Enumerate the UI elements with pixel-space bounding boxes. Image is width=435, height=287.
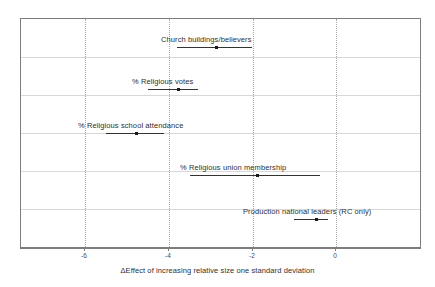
x-tick-label: 0 — [333, 252, 337, 259]
confidence-interval-bar — [148, 89, 198, 90]
vertical-gridline-neg6 — [85, 19, 86, 247]
vertical-gridline-neg4 — [169, 19, 170, 247]
horizontal-gridline — [21, 133, 420, 134]
x-tick-label: -4 — [165, 252, 171, 259]
x-axis-title: ΔEffect of increasing relative size one … — [0, 266, 435, 275]
x-tick-label: -6 — [81, 252, 87, 259]
series-label: % Religious school attendance — [78, 121, 183, 130]
point-estimate-marker — [256, 174, 259, 177]
plot-area: Church buildings/believers % Religious v… — [20, 18, 421, 248]
coefficient-plot-figure: Church buildings/believers % Religious v… — [0, 0, 435, 287]
x-tick-mark — [252, 248, 253, 251]
x-tick-label: -2 — [249, 252, 255, 259]
x-tick-mark — [168, 248, 169, 251]
point-estimate-marker — [215, 46, 218, 49]
point-estimate-marker — [135, 132, 138, 135]
confidence-interval-bar — [294, 219, 328, 220]
horizontal-gridline — [21, 57, 420, 58]
x-tick-mark — [335, 248, 336, 251]
point-estimate-marker — [177, 88, 180, 91]
series-label: % Religious union membership — [180, 163, 286, 172]
confidence-interval-bar — [190, 175, 320, 176]
point-estimate-marker — [315, 218, 318, 221]
horizontal-gridline — [21, 95, 420, 96]
x-axis-line — [20, 248, 421, 249]
series-label: Production national leaders (RC only) — [243, 207, 371, 216]
x-tick-mark — [84, 248, 85, 251]
series-label: % Religious votes — [132, 77, 193, 86]
series-label: Church buildings/believers — [161, 35, 252, 44]
